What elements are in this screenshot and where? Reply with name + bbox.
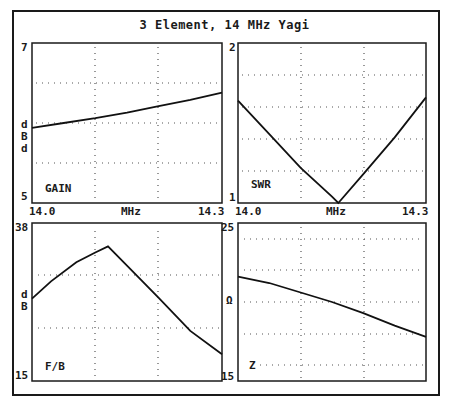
swr-xmax: 14.3 [402, 206, 429, 217]
gain-ymin: 5 [21, 191, 28, 202]
gain-plot [32, 43, 222, 203]
gain-xunit: MHz [121, 206, 141, 217]
z-chart: 25 Ω 15 Z [238, 223, 426, 381]
z-unit: Ω [226, 295, 233, 306]
gain-xmin: 14.0 [29, 206, 56, 217]
fb-plot [32, 223, 222, 381]
fb-curve [32, 246, 222, 354]
fb-unit-1: d [21, 289, 28, 300]
gain-chart: 7 d B d 5 GAIN 14.0 MHz 14.3 [32, 43, 222, 203]
swr-xunit: MHz [326, 206, 346, 217]
gain-unit-3: d [21, 143, 28, 154]
gain-label: GAIN [45, 183, 72, 194]
swr-xmin: 14.0 [235, 206, 262, 217]
fb-ymin: 15 [15, 370, 28, 381]
swr-ymax: 2 [229, 42, 236, 53]
fb-chart: 38 d B 15 F/B [32, 223, 222, 381]
z-ymin: 15 [221, 371, 234, 382]
z-label: Z [249, 360, 256, 371]
figure-title: 3 Element, 14 MHz Yagi [0, 18, 449, 32]
gain-xmax: 14.3 [198, 206, 225, 217]
fb-label: F/B [45, 361, 65, 372]
swr-label: SWR [251, 179, 271, 190]
gain-unit-1: d [21, 119, 28, 130]
swr-chart: 2 1 SWR 14.0 MHz 14.3 [238, 43, 426, 203]
fb-unit-2: B [21, 301, 28, 312]
z-curve [238, 277, 426, 337]
z-ymax: 25 [221, 222, 234, 233]
gain-unit-2: B [21, 131, 28, 142]
gain-ymax: 7 [21, 42, 28, 53]
z-plot [238, 223, 426, 381]
fb-ymax: 38 [15, 222, 28, 233]
swr-ymin: 1 [229, 192, 236, 203]
